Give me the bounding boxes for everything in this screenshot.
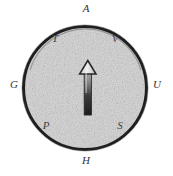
bearing-label-t: T: [48, 33, 62, 44]
needle-shaft-highlight: [85, 73, 87, 93]
bearing-label-g: G: [7, 79, 21, 90]
compass-diagram: A T V G U P S H: [0, 0, 173, 176]
needle-shaft: [84, 72, 91, 115]
bearing-label-s: S: [113, 120, 127, 131]
bearing-label-u: U: [150, 79, 164, 90]
bearing-label-h: H: [79, 155, 93, 166]
bearing-label-v: V: [108, 33, 122, 44]
bearing-label-p: P: [39, 120, 53, 131]
bearing-label-a: A: [79, 3, 93, 14]
compass-graphic: [0, 0, 173, 176]
